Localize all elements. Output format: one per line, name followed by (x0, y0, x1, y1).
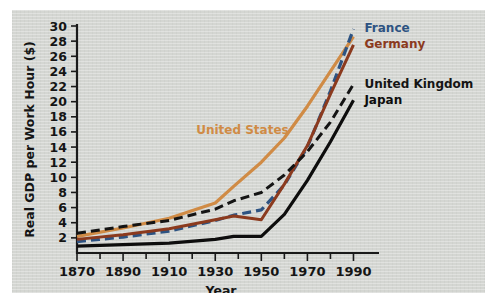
y-tick-label: 14 (50, 140, 68, 155)
x-tick-label: 1910 (151, 264, 187, 279)
series-group (77, 29, 353, 246)
y-axis-title: Real GDP per Work Hour ($) (22, 41, 37, 238)
series-line-japan (77, 100, 353, 246)
y-tick-label: 26 (50, 49, 68, 64)
series-label-france: France (364, 21, 409, 35)
x-axis-title: Year (205, 283, 238, 293)
y-tick-label: 10 (50, 170, 68, 185)
y-tick-label: 24 (50, 64, 68, 79)
y-tick-label: 28 (50, 34, 67, 49)
series-label-germany: Germany (364, 37, 425, 51)
x-tick-label: 1970 (289, 264, 325, 279)
series-label-united-kingdom: United Kingdom (364, 77, 473, 91)
x-tick-label: 1990 (335, 264, 371, 279)
y-tick-label: 16 (50, 124, 68, 139)
y-tick-label: 18 (50, 109, 67, 124)
y-tick-label: 20 (50, 94, 68, 109)
x-tick-label: 1870 (59, 264, 95, 279)
y-tick-label: 22 (50, 79, 67, 94)
y-axis-ticks: 24681012141618202224262830 (50, 19, 77, 246)
y-tick-label: 6 (58, 200, 67, 215)
y-tick-label: 8 (58, 185, 67, 200)
y-tick-label: 12 (50, 155, 67, 170)
line-chart: 2468101214161820222426283018701890191019… (12, 10, 485, 293)
y-tick-label: 30 (50, 19, 68, 34)
x-tick-label: 1890 (105, 264, 141, 279)
chart-screenshot: 2468101214161820222426283018701890191019… (0, 0, 497, 305)
series-label-united-states: United States (196, 123, 289, 137)
y-tick-label: 4 (58, 215, 67, 230)
x-axis-ticks: 1870189019101930195019701990 (59, 253, 372, 279)
series-line-united-kingdom (77, 84, 353, 233)
series-label-japan: Japan (363, 93, 402, 107)
chart-canvas: 2468101214161820222426283018701890191019… (12, 10, 485, 293)
x-tick-label: 1930 (197, 264, 233, 279)
x-tick-label: 1950 (243, 264, 279, 279)
chart-plate: 2468101214161820222426283018701890191019… (12, 10, 485, 293)
y-tick-label: 2 (58, 230, 67, 245)
